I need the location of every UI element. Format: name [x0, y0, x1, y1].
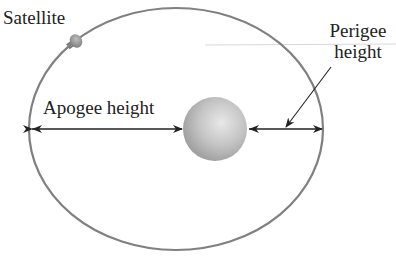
perigee-label-line2: height — [322, 42, 394, 62]
apogee-height-label: Apogee height — [43, 98, 154, 118]
satellite-label: Satellite — [3, 8, 65, 28]
earth-sphere — [183, 97, 247, 161]
perigee-label-line1: Perigee — [322, 21, 394, 41]
